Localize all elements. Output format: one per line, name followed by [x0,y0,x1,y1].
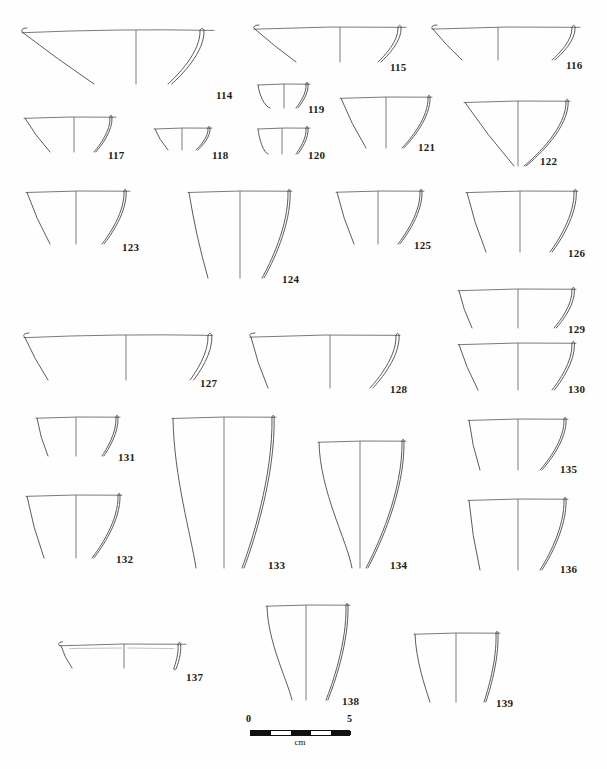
vessel-profile-137 [58,638,228,698]
vessel-profile-135 [466,414,607,500]
vessel-label-122: 122 [540,156,557,167]
vessel-label-117: 117 [108,150,125,161]
vessel-label-129: 129 [568,324,585,335]
vessel-profile-130 [456,338,607,420]
vessel-label-130: 130 [568,384,585,395]
vessel-label-137: 137 [186,672,203,683]
scale-bar-graphic [250,730,350,736]
scale-segment [331,731,351,735]
pottery-profile-plate: 1141151161171181191201211221231241251261… [0,0,607,769]
vessel-profile-136 [466,494,607,600]
vessel-profile-128 [248,330,442,418]
scale-unit-label: cm [295,737,306,747]
scale-end-label: 5 [347,713,352,724]
vessel-label-118: 118 [212,150,229,161]
vessel-label-126: 126 [568,248,585,259]
vessel-label-120: 120 [308,150,325,161]
vessel-label-125: 125 [414,240,431,251]
vessel-label-116: 116 [566,60,583,71]
vessel-profile-116 [430,22,607,88]
scale-segment [251,731,271,735]
vessel-profile-123 [24,186,172,274]
scale-start-label: 0 [246,713,251,724]
vessel-label-119: 119 [308,104,325,115]
vessel-label-134: 134 [390,560,407,571]
vessel-label-114: 114 [216,90,233,101]
vessel-profile-133 [170,412,318,598]
vessel-label-138: 138 [342,696,359,707]
vessel-profile-125 [334,186,466,274]
vessel-profile-118 [152,124,254,178]
vessel-label-132: 132 [116,554,133,565]
vessel-label-131: 131 [118,452,135,463]
vessel-label-123: 123 [122,242,139,253]
vessel-label-115: 115 [390,62,407,73]
vessel-profile-127 [22,330,254,410]
vessel-profile-121 [338,92,474,176]
vessel-label-128: 128 [390,384,407,395]
vessel-profile-124 [186,186,334,308]
vessel-label-135: 135 [560,464,577,475]
vessel-label-139: 139 [496,698,513,709]
vessel-profile-134 [316,436,448,598]
vessel-profile-138 [264,600,392,730]
vessel-label-133: 133 [268,560,285,571]
vessel-profile-122 [462,96,607,194]
vessel-label-124: 124 [282,274,299,285]
vessel-label-121: 121 [418,142,435,153]
scale-segment [291,731,311,735]
vessel-profile-126 [464,186,607,282]
vessel-profile-139 [412,628,542,732]
vessel-label-136: 136 [560,564,577,575]
vessel-profile-131 [34,412,162,486]
vessel-profile-117 [22,112,158,180]
vessel-label-127: 127 [200,378,217,389]
vessel-profile-132 [24,490,164,588]
